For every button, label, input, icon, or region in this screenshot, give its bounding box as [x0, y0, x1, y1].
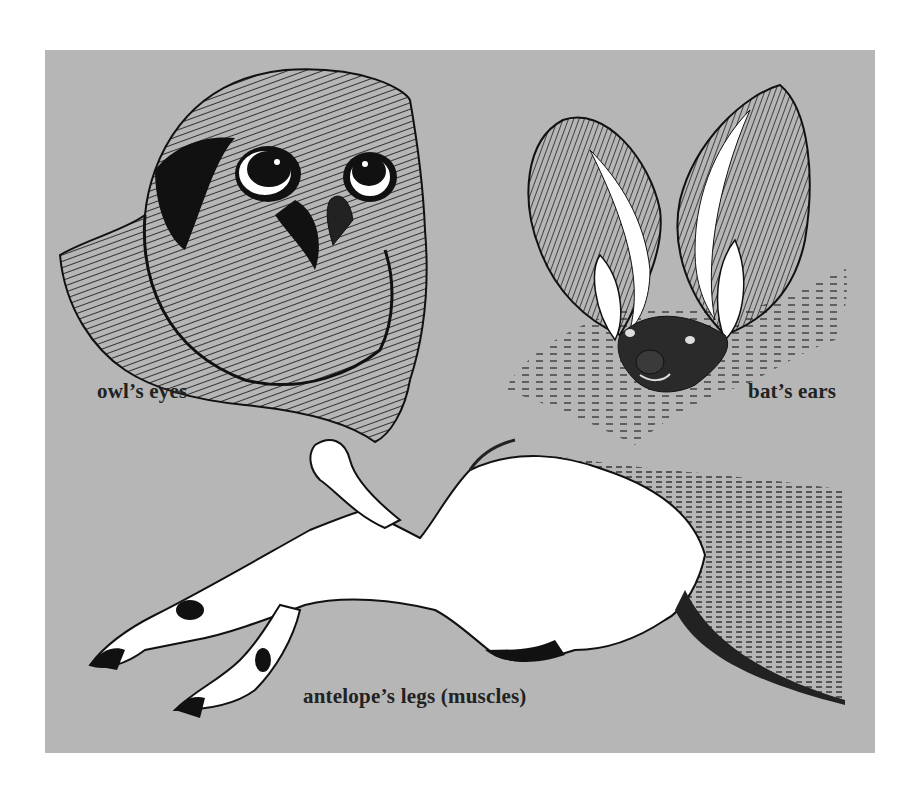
illustration-panel: owl’s eyes bat’s ears antelope’s legs (m… — [45, 50, 875, 753]
owl-caption: owl’s eyes — [97, 379, 187, 404]
antelope-caption: antelope’s legs (muscles) — [303, 684, 527, 709]
antelope-legs — [90, 440, 845, 718]
bat-caption: bat’s ears — [748, 379, 836, 404]
